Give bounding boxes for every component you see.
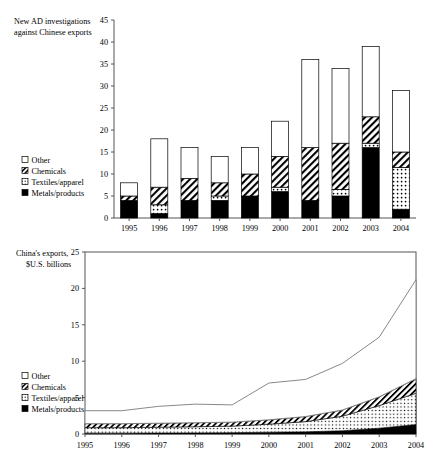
bottom-x-tick-label: 2001: [297, 441, 313, 450]
bar-segment: [151, 205, 168, 214]
bar-segment: [302, 200, 319, 218]
top-axis-title-line2: against Chinese exports: [14, 28, 92, 37]
bar-segment: [362, 46, 379, 116]
top-y-tick-label: 45: [100, 16, 108, 25]
bar-segment: [121, 196, 138, 200]
bar-segment: [151, 214, 168, 218]
top-y-tick-label: 25: [100, 104, 108, 113]
top-y-tick-label: 10: [100, 170, 108, 179]
bottom-axis-title: China's exports, $U.S. billions: [16, 249, 71, 269]
bottom-x-tick-label: 2004: [408, 441, 424, 450]
legend-swatch-chemicals-bottom: [22, 384, 28, 390]
bottom-y-tick-label: 15: [71, 321, 79, 330]
bottom-x-tick-label: 1998: [187, 441, 203, 450]
bar-segment: [362, 117, 379, 143]
legend-swatch-metals-bottom: [22, 406, 28, 412]
bottom-y-tick-label: 20: [71, 284, 79, 293]
bottom-x-tick-label: 1999: [224, 441, 240, 450]
top-y-tick-label: 30: [100, 82, 108, 91]
bar-segment: [272, 121, 289, 156]
top-y-tick-label: 20: [100, 126, 108, 135]
top-y-tick-label: 35: [100, 60, 108, 69]
bar-segment: [362, 143, 379, 147]
top-x-tick-label: 2004: [393, 224, 409, 233]
top-x-tick-label: 1998: [212, 224, 228, 233]
top-x-tick-label: 2003: [363, 224, 379, 233]
top-x-tick-label: 2000: [272, 224, 288, 233]
bar-segment: [332, 196, 349, 218]
top-bars-group: [121, 46, 410, 218]
top-axis-title: New AD investigations against Chinese ex…: [14, 17, 92, 37]
bottom-x-tick-label: 2000: [261, 441, 277, 450]
legend-swatch-textiles: [22, 179, 28, 185]
bar-segment: [151, 187, 168, 205]
bar-segment: [211, 183, 228, 196]
top-x-tick-label: 1999: [242, 224, 258, 233]
bar-segment: [211, 200, 228, 218]
legend-label-metals-bottom: Metals/products: [32, 405, 85, 414]
bottom-axis-title-line1: China's exports,: [16, 249, 68, 258]
bar-segment: [332, 189, 349, 196]
bar-segment: [332, 143, 349, 189]
bottom-x-tick-labels: 1995199619971998199920002001200220032004: [77, 441, 424, 450]
bottom-chart-figure: China's exports, $U.S. billions 05101520…: [0, 240, 427, 465]
top-y-tick-label: 40: [100, 38, 108, 47]
bottom-x-tick-label: 1995: [77, 441, 93, 450]
bottom-x-tick-label: 1997: [150, 441, 166, 450]
bar-segment: [121, 183, 138, 196]
bottom-x-tick-label: 2003: [371, 441, 387, 450]
bar-segment: [241, 148, 258, 174]
legend-label-other-bottom: Other: [32, 372, 51, 381]
bar-segment: [392, 167, 409, 209]
legend-label-chemicals-bottom: Chemicals: [32, 383, 67, 392]
top-y-tick-label: 15: [100, 148, 108, 157]
top-legend: Other Chemicals Textiles/apparel Metals/…: [22, 156, 84, 198]
bar-segment: [181, 148, 198, 179]
bar-segment: [302, 60, 319, 148]
bar-segment: [332, 68, 349, 143]
top-x-tick-label: 2001: [302, 224, 318, 233]
top-y-tick-label: 0: [104, 214, 108, 223]
legend-label-textiles: Textiles/apparel: [32, 178, 85, 187]
bottom-x-tick-label: 2002: [334, 441, 350, 450]
bar-segment: [211, 196, 228, 200]
legend-swatch-other-bottom: [22, 373, 28, 379]
bar-segment: [181, 178, 198, 200]
bar-segment: [392, 152, 409, 167]
top-x-tick-label: 2002: [332, 224, 348, 233]
bar-segment: [181, 200, 198, 218]
bottom-y-tick-label: 10: [71, 357, 79, 366]
bar-segment: [272, 187, 289, 191]
top-axis-title-line1: New AD investigations: [14, 17, 90, 26]
top-x-tick-label: 1997: [181, 224, 197, 233]
bar-segment: [211, 156, 228, 182]
legend-swatch-textiles-bottom: [22, 395, 28, 401]
bar-segment: [362, 148, 379, 218]
legend-label-other: Other: [32, 156, 51, 165]
top-chart-figure: New AD investigations against Chinese ex…: [0, 0, 427, 240]
bar-segment: [392, 90, 409, 152]
top-y-tick-label: 5: [104, 192, 108, 201]
bar-segment: [392, 209, 409, 218]
bar-segment: [121, 200, 138, 218]
bar-segment: [241, 174, 258, 196]
legend-label-chemicals: Chemicals: [32, 167, 67, 176]
bottom-axis-title-line2: $U.S. billions: [26, 260, 71, 269]
legend-swatch-other: [22, 157, 28, 163]
bottom-chart-svg: China's exports, $U.S. billions 05101520…: [0, 240, 427, 465]
bar-segment: [272, 156, 289, 187]
legend-label-textiles-bottom: Textiles/apparel: [32, 394, 85, 403]
bar-segment: [272, 192, 289, 218]
bottom-y-tick-label: 0: [75, 430, 79, 439]
legend-label-metals: Metals/products: [32, 189, 85, 198]
top-x-tick-label: 1996: [151, 224, 167, 233]
top-x-tick-labels: 1995199619971998199920002001200220032004: [121, 224, 409, 233]
bar-segment: [241, 196, 258, 218]
top-chart-svg: New AD investigations against Chinese ex…: [0, 0, 427, 240]
bottom-x-tick-label: 1996: [114, 441, 130, 450]
legend-swatch-chemicals: [22, 168, 28, 174]
legend-swatch-metals: [22, 190, 28, 196]
top-y-tick-labels: 051015202530354045: [100, 16, 108, 223]
bar-segment: [151, 139, 168, 187]
bar-segment: [302, 148, 319, 201]
